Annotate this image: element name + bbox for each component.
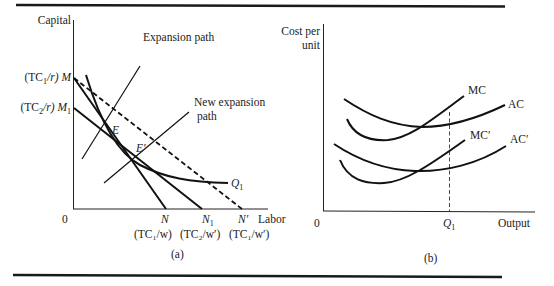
panel-a-origin: 0 xyxy=(62,213,68,226)
intercept-m1-post: /r) xyxy=(43,101,57,113)
intercept-n-prime-label: N′ xyxy=(238,213,248,226)
q1-marker-label: Q1 xyxy=(443,217,455,234)
intercept-n1-letter: N xyxy=(202,213,210,225)
intercept-n-formula: (TC₁/w) xyxy=(134,228,172,241)
panel-b-plot xyxy=(323,24,535,212)
q1-marker-sub: 1 xyxy=(451,223,455,232)
panel-b-caption: (b) xyxy=(424,252,437,265)
new-expansion-path-line xyxy=(104,112,189,183)
point-e-label: E xyxy=(112,124,119,137)
intercept-m-name: M xyxy=(61,71,71,83)
isocost-m1-n1 xyxy=(74,108,202,209)
panel-a-y-axis-label: Capital xyxy=(0,14,71,27)
ac-label: AC xyxy=(508,98,524,111)
point-e-prime-label: E′ xyxy=(136,142,146,155)
top-rule xyxy=(16,5,505,7)
isoquant-q1-label: Q1 xyxy=(231,177,243,194)
ac-prime-curve xyxy=(334,144,506,171)
intercept-m-post: /r) xyxy=(47,71,61,83)
intercept-n-prime-formula: (TC₁/w′) xyxy=(229,228,269,241)
bottom-rule xyxy=(13,275,502,277)
figure: Capital (TC1/r) M (TC2/r) M1 Expansion p… xyxy=(0,0,554,286)
intercept-m1-name: M xyxy=(57,101,67,113)
panel-b-x-axis-label: Output xyxy=(498,217,530,230)
intercept-n1-formula: (TC₂/w′) xyxy=(180,228,220,241)
intercept-m-label: (TC1/r) M xyxy=(0,71,71,88)
mc-curve xyxy=(347,96,464,140)
new-expansion-path-label-line2: path xyxy=(197,110,217,123)
ac-curve xyxy=(344,99,505,127)
intercept-n1-sub: 1 xyxy=(210,219,214,228)
isoquant-q1 xyxy=(86,75,228,183)
intercept-m1-name-sub: 1 xyxy=(67,107,71,116)
intercept-m-pre: (TC xyxy=(25,71,44,83)
panel-a-x-axis-label: Labor xyxy=(258,213,285,226)
intercept-n-label: N xyxy=(161,213,169,226)
isoquant-q-sub: 1 xyxy=(239,183,243,192)
mc-prime-curve xyxy=(340,140,465,183)
panel-b-origin: 0 xyxy=(314,217,320,230)
mc-label: MC xyxy=(468,84,486,97)
expansion-path-line xyxy=(82,66,140,159)
mc-prime-label: MC′ xyxy=(470,129,490,142)
intercept-m1-pre: (TC xyxy=(21,101,40,113)
panel-a-caption: (a) xyxy=(171,248,184,261)
intercept-m1-label: (TC2/r) M1 xyxy=(0,101,71,118)
new-expansion-path-label-line1: New expansion xyxy=(194,96,265,109)
ac-prime-label: AC′ xyxy=(510,133,529,146)
panel-b-y-axis-label-line2: unit xyxy=(270,39,320,52)
panel-b-x-axis xyxy=(323,211,535,212)
expansion-path-label: Expansion path xyxy=(143,31,214,44)
panel-b-y-axis-label-line1: Cost per xyxy=(270,25,320,38)
